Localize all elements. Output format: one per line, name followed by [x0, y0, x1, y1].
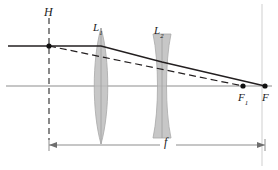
label-lens-2-subscript: 2: [160, 32, 163, 39]
label-lens-1-subscript: 1: [99, 29, 102, 36]
label-focal-point: F: [262, 92, 269, 103]
diagram-canvas: [0, 0, 278, 170]
focal-length-dimension: [49, 139, 265, 151]
optics-ray-diagram-figure: H L1 L2 F1 F f: [0, 0, 278, 170]
focal-point-1-marker: [240, 83, 245, 88]
label-lens-1: L1: [93, 22, 103, 36]
label-focal-point-1: F1: [238, 92, 248, 106]
label-principal-plane-H: H: [44, 6, 53, 18]
label-focal-point-1-letter: F: [238, 91, 245, 103]
label-lens-2: L2: [154, 25, 164, 39]
focal-point-marker: [262, 83, 267, 88]
dashed-equivalent-ray: [49, 46, 243, 86]
label-focal-length: f: [164, 136, 167, 148]
label-focal-point-1-subscript: 1: [245, 99, 248, 106]
principal-point-marker: [46, 43, 51, 48]
solid-refracted-ray: [101, 46, 265, 86]
